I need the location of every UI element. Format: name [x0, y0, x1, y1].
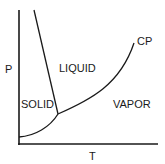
region-vapor-label: VAPOR — [113, 98, 151, 110]
y-axis-label: P — [5, 63, 12, 75]
critical-point-label: CP — [137, 35, 152, 47]
region-liquid-label: LIQUID — [59, 62, 96, 74]
region-solid-label: SOLID — [21, 98, 54, 110]
sublimation-curve — [19, 114, 58, 137]
x-axis-label: T — [89, 150, 96, 162]
phase-diagram: P T LIQUID SOLID VAPOR CP — [0, 0, 165, 164]
